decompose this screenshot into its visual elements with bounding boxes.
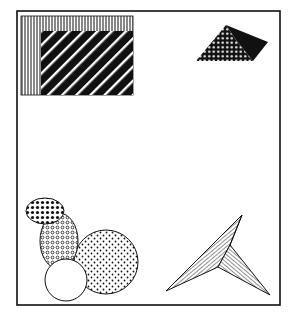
nested-rectangles — [21, 16, 133, 95]
hatched-arrowhead — [166, 215, 270, 295]
inner-rectangle-diagonal-stripes — [41, 31, 133, 95]
white-circle — [45, 259, 87, 301]
small-black-dotted-ellipse — [26, 198, 64, 224]
ellipse-cluster — [26, 198, 138, 301]
dotted-quadrilateral — [196, 25, 268, 61]
arrowhead-right-half — [218, 245, 270, 295]
diagram-canvas — [0, 0, 295, 320]
